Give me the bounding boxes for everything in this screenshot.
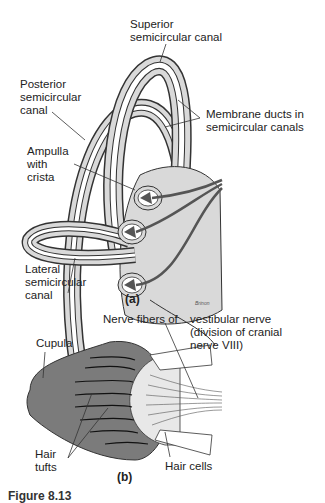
figure-label: Figure 8.13 [8, 489, 71, 503]
label-vestibular-nerve: vestibular nerve (division of cranial ne… [190, 313, 282, 352]
label-lateral-canal: Lateral semicircular canal [25, 263, 86, 302]
label-cupula: Cupula [36, 337, 72, 350]
ampulla-lateral [118, 220, 146, 244]
label-ampulla: Ampulla with crista [27, 145, 69, 184]
caption-a: (a) [125, 292, 140, 306]
label-hair-cells: Hair cells [165, 460, 212, 473]
label-nerve-fibers: Nerve fibers of [103, 313, 178, 326]
label-hair-tufts: Hair tufts [35, 448, 57, 474]
caption-b: (b) [117, 470, 132, 484]
artist-signature: Brinon [195, 300, 210, 306]
label-posterior-canal: Posterior semicircular canal [20, 78, 81, 117]
label-superior-canal: Superior semicircular canal [130, 18, 222, 44]
label-membrane-ducts: Membrane ducts in semicircular canals [206, 108, 304, 134]
